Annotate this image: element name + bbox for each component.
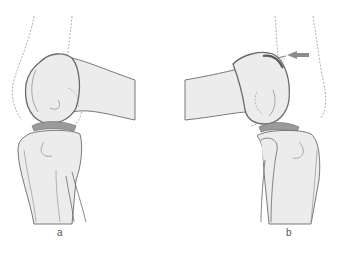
panel-b: b [173,0,346,253]
meniscus [32,122,76,132]
arrow-left-icon [287,51,309,59]
panel-a: a [0,0,173,253]
dashed-outline-anterior [313,16,326,118]
knee-diagram-b [173,0,346,253]
panel-label-b: b [286,227,292,238]
panel-label-a: a [57,227,63,238]
knee-diagram-a [0,0,173,253]
femoral-condyle [26,54,80,123]
